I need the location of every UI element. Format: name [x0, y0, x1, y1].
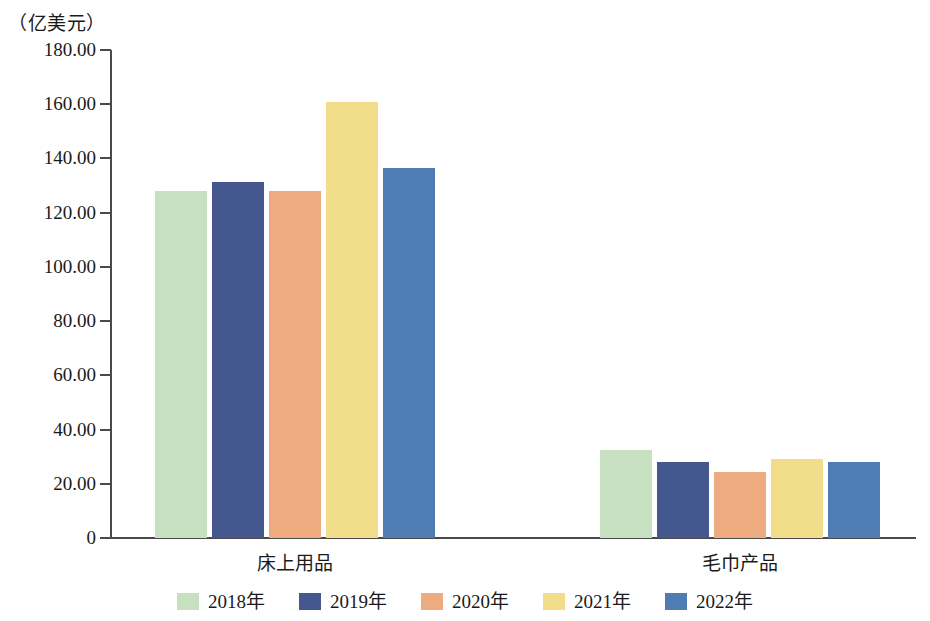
bar: [269, 191, 321, 538]
bar: [383, 168, 435, 538]
bar: [600, 450, 652, 538]
bar: [657, 462, 709, 538]
legend-swatch-icon: [177, 593, 199, 610]
legend-label: 2021年: [574, 592, 631, 611]
bar-chart: （亿美元） 180.00160.00140.00120.00100.0080.0…: [0, 0, 930, 621]
bar: [828, 462, 880, 538]
legend-item[interactable]: 2019年: [299, 592, 387, 611]
bar: [155, 191, 207, 538]
legend-swatch-icon: [421, 593, 443, 610]
legend-swatch-icon: [543, 593, 565, 610]
bar: [326, 102, 378, 538]
legend-label: 2020年: [452, 592, 509, 611]
bars-layer: [0, 0, 930, 538]
legend-item[interactable]: 2020年: [421, 592, 509, 611]
x-axis-category-label: 毛巾产品: [600, 548, 880, 575]
legend-label: 2018年: [208, 592, 265, 611]
bar: [771, 459, 823, 538]
legend-label: 2022年: [696, 592, 753, 611]
chart-legend: 2018年2019年2020年2021年2022年: [0, 592, 930, 611]
bar: [714, 472, 766, 538]
bar: [212, 182, 264, 538]
legend-swatch-icon: [299, 593, 321, 610]
legend-item[interactable]: 2022年: [665, 592, 753, 611]
legend-label: 2019年: [330, 592, 387, 611]
legend-item[interactable]: 2018年: [177, 592, 265, 611]
legend-item[interactable]: 2021年: [543, 592, 631, 611]
x-axis-category-label: 床上用品: [155, 548, 435, 575]
legend-swatch-icon: [665, 593, 687, 610]
